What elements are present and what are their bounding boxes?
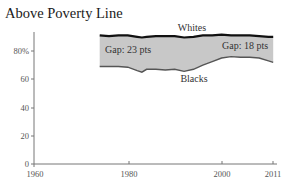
gap-start-label: Gap: 23 pts — [105, 44, 151, 55]
gap-end-label: Gap: 18 pts — [222, 40, 268, 51]
y-tick-40: 40 — [21, 103, 30, 113]
y-tick-20: 20 — [21, 131, 30, 141]
y-tick-60: 60 — [21, 74, 30, 84]
blacks-label: Blacks — [180, 73, 207, 84]
y-ticks: 80% 60 40 20 0 — [13, 46, 34, 169]
whites-label: Whites — [178, 22, 206, 33]
x-tick-1980: 1980 — [121, 169, 138, 179]
y-tick-0: 0 — [25, 159, 29, 169]
x-tick-2011: 2011 — [265, 169, 282, 179]
x-tick-2000: 2000 — [214, 169, 231, 179]
y-tick-80: 80% — [13, 46, 29, 56]
chart-plot: 80% 60 40 20 0 1960 1980 2000 2011 White… — [0, 0, 289, 189]
x-tick-1960: 1960 — [27, 169, 44, 179]
